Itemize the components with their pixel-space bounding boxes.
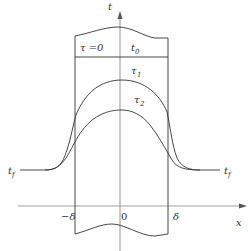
x-axis-label: x: [236, 217, 242, 228]
neg-delta-label: −δ: [61, 211, 75, 222]
arrow-right-icon: [239, 204, 247, 209]
labels: t τ =0 t 0 τ 1 τ 2 t f t f −δ 0 δ x: [8, 1, 242, 228]
fluid-temp-left-sub: f: [11, 171, 16, 179]
curve-tau2: [45, 110, 200, 170]
arrow-up-icon: [118, 11, 123, 19]
pos-delta-label: δ: [173, 211, 179, 222]
plate-bottom-edge: [75, 224, 168, 236]
tau1-sub: 1: [137, 71, 141, 79]
plate-outline: [75, 27, 168, 236]
initial-temp-sub: 0: [135, 48, 140, 56]
tau2-sub: 2: [139, 100, 145, 108]
fluid-temp-right-sub: f: [227, 171, 232, 179]
plate-top-edge: [75, 27, 168, 38]
origin-label: 0: [121, 211, 127, 222]
horizontal-axis: [18, 204, 247, 209]
t-axis-label: t: [108, 1, 113, 12]
diagram-canvas: t τ =0 t 0 τ 1 τ 2 t f t f −δ 0 δ x: [0, 0, 250, 251]
initial-time-label: τ =0: [80, 42, 104, 53]
